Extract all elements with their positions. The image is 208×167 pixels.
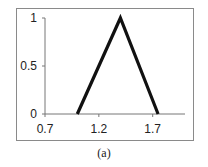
series-line (77, 18, 158, 114)
x-tick-label: 1.2 (91, 122, 108, 136)
y-tick-label: 0.5 (20, 59, 37, 73)
triangle-membership-line (77, 18, 158, 114)
chart-plot: 00.510.71.21.7 (0, 0, 208, 167)
y-tick-label: 1 (30, 11, 37, 25)
ticks: 00.510.71.21.7 (20, 11, 161, 136)
y-tick-label: 0 (30, 107, 37, 121)
figure-caption: (a) (0, 146, 208, 161)
x-tick-label: 1.7 (144, 122, 161, 136)
x-tick-label: 0.7 (37, 122, 54, 136)
